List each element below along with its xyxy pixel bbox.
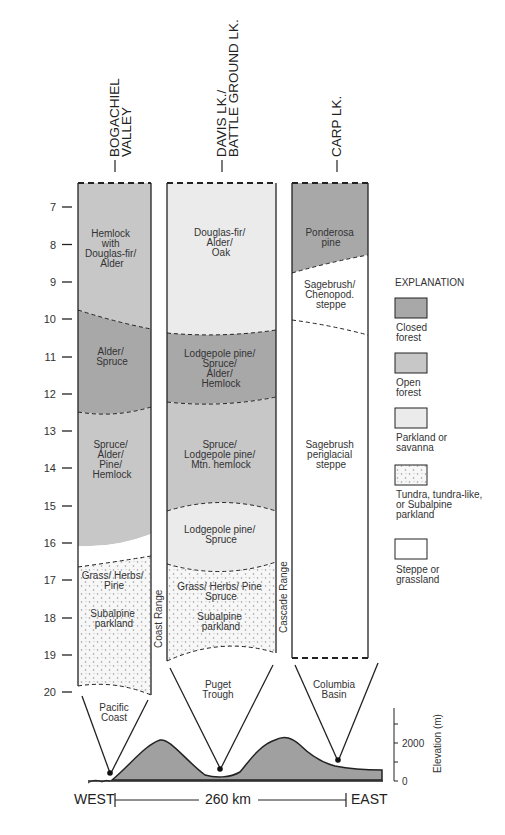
zone-douglas-fir-alder-oak <box>167 183 276 335</box>
svg-text:Tundra, tundra-like,or Subalpi: Tundra, tundra-like,or Subalpineparkland <box>396 489 482 520</box>
svg-text:ColumbiaBasin: ColumbiaBasin <box>313 679 356 700</box>
site-header-bogachiel: BOGACHIEL VALLEY <box>107 78 134 172</box>
column-carp: Ponderosa pine Sagebrush/ Chenopod. step… <box>292 183 368 658</box>
svg-text:Steppe orgrassland: Steppe orgrassland <box>396 564 440 585</box>
site-name-line1: CARP LK. <box>329 96 344 157</box>
distance-scale: WEST 260 km EAST <box>74 791 388 807</box>
svg-text:15: 15 <box>44 500 56 512</box>
zone-sagebrush-periglacial <box>292 320 368 658</box>
site-name-line2: VALLEY <box>119 107 134 157</box>
age-axis: Age (ka) 7 8 9 10 11 12 13 14 15 <box>0 201 72 698</box>
svg-text:Parkland orsavanna: Parkland orsavanna <box>396 432 448 453</box>
site-marker-carp <box>335 757 341 763</box>
column-davis: Douglas-fir/ Alder/ Oak Lodgepole pine/ … <box>167 183 276 661</box>
svg-text:7: 7 <box>50 201 56 213</box>
site-header-carp: CARP LK. <box>329 96 344 172</box>
svg-text:12: 12 <box>44 388 56 400</box>
svg-text:Openforest: Openforest <box>396 377 421 398</box>
svg-text:18: 18 <box>44 612 56 624</box>
legend-item-parkland: Parkland orsavanna <box>395 408 448 453</box>
svg-text:PacificCoast: PacificCoast <box>99 702 128 723</box>
legend-item-tundra: Tundra, tundra-like,or Subalpineparkland <box>395 465 482 520</box>
elevation-tick-0: 0 <box>402 776 408 787</box>
elevation-tick-2000: 2000 <box>402 738 425 749</box>
vegetation-history-diagram: BOGACHIEL VALLEY DAVIS LK./ BATTLE GROUN… <box>0 0 505 835</box>
legend-item-steppe: Steppe orgrassland <box>395 539 440 585</box>
site-marker-bogachiel <box>107 770 113 776</box>
coast-range-label: Coast Range <box>153 589 164 648</box>
svg-text:9: 9 <box>50 276 56 288</box>
legend-title: EXPLANATION <box>395 277 464 288</box>
legend-item-closed-forest: Closedforest <box>395 298 427 343</box>
svg-text:Subalpine parkland: Subalpine parkland <box>197 611 244 632</box>
terrain-profile <box>88 738 383 783</box>
svg-text:10: 10 <box>44 313 56 325</box>
svg-text:Alder/ Spruce: Alder/ Spruce <box>96 346 128 367</box>
svg-text:Subalpine parkland: Subalpine parkland <box>90 608 137 629</box>
site-marker-davis <box>217 766 223 772</box>
cascade-range-label: Cascade Range <box>278 561 289 633</box>
svg-text:16: 16 <box>44 537 56 549</box>
svg-text:PugetTrough: PugetTrough <box>202 679 233 700</box>
svg-text:11: 11 <box>45 351 56 363</box>
elevation-axis: 2000 0 Elevation (m) <box>394 708 443 787</box>
site-name-line2: BATTLE GROUND LK. <box>226 19 241 157</box>
svg-text:17: 17 <box>44 574 56 586</box>
svg-text:8: 8 <box>50 239 56 251</box>
elevation-axis-label: Elevation (m) <box>432 714 443 773</box>
svg-text:20: 20 <box>44 686 56 698</box>
distance-label: 260 km <box>205 791 251 807</box>
svg-text:13: 13 <box>44 425 56 437</box>
legend-item-open-forest: Openforest <box>395 353 427 398</box>
column-bogachiel: Hemlock with Douglas-fir/ Alder Alder/ S… <box>78 183 151 695</box>
age-ticks: 7 8 9 10 11 12 13 14 15 16 17 18 19 20 <box>44 201 72 698</box>
svg-text:Closedforest: Closedforest <box>396 322 427 343</box>
west-label: WEST <box>74 791 115 807</box>
svg-text:19: 19 <box>44 649 56 661</box>
east-label: EAST <box>351 791 388 807</box>
site-header-davis: DAVIS LK./ BATTLE GROUND LK. <box>214 19 241 172</box>
explanation-legend: EXPLANATION Closedforest Openforest Park… <box>395 277 482 585</box>
svg-text:14: 14 <box>44 462 56 474</box>
